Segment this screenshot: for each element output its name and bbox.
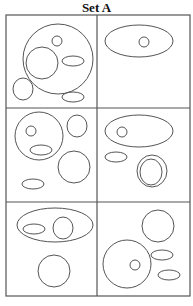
- panel-3-circle: [15, 112, 63, 160]
- panel-3-circle: [58, 151, 90, 183]
- panel-5-ellipse: [53, 217, 73, 239]
- panel-1-ellipse: [13, 78, 33, 100]
- panel-6-circle: [103, 240, 151, 288]
- panel-1-circle: [26, 47, 58, 79]
- panel-6-circle: [142, 210, 174, 242]
- panel-6-ellipse: [151, 250, 173, 260]
- panel-3-circle: [26, 126, 36, 136]
- grid-border: [6, 15, 190, 296]
- panel-6-circle: [130, 260, 140, 270]
- panel-4-ellipse: [105, 115, 173, 147]
- panel-1-circle: [52, 36, 62, 46]
- panel-3-ellipse: [67, 115, 87, 137]
- panel-4-circle: [117, 127, 127, 137]
- panel-4-ellipse: [137, 155, 167, 187]
- panel-4-ellipse: [140, 159, 162, 185]
- panel-2-circle: [139, 37, 149, 47]
- panel-5-ellipse: [23, 224, 45, 234]
- panel-5-circle: [38, 255, 70, 287]
- panel-3-ellipse: [30, 145, 52, 155]
- panel-3-ellipse: [22, 179, 44, 189]
- set-diagram-grid: [0, 0, 193, 306]
- panel-1-ellipse: [62, 92, 84, 102]
- panel-1-ellipse: [62, 56, 84, 66]
- panel-6-ellipse: [158, 270, 180, 280]
- panel-4-ellipse: [105, 152, 127, 162]
